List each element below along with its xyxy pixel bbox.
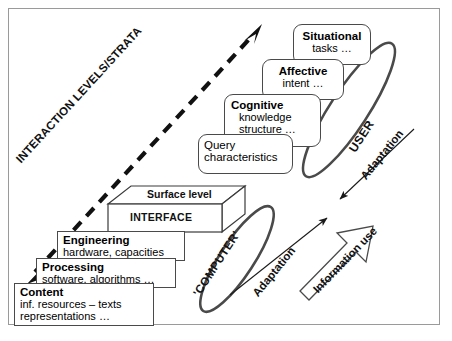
box-engineering-heading: Engineering	[63, 234, 184, 246]
box-content-line3: representations …	[20, 310, 153, 322]
box-engineering-line2: hardware, capacities	[63, 246, 184, 258]
box-situational-line2: tasks …	[294, 42, 370, 54]
box-affective-line2: intent …	[263, 77, 343, 89]
box-query-line2: characteristics	[204, 151, 292, 163]
box-query-characteristics: Query characteristics	[198, 134, 293, 174]
interface-front-label: INTERFACE	[130, 211, 192, 223]
box-affective-heading: Affective	[263, 65, 343, 77]
box-content-heading: Content	[20, 286, 153, 298]
box-cognitive-heading: Cognitive	[231, 99, 320, 111]
box-query-heading: Query	[204, 139, 292, 151]
box-content-line2: inf. resources – texts	[20, 298, 153, 310]
box-cognitive-line2: knowledge	[231, 111, 320, 123]
box-engineering: Engineering hardware, capacities	[57, 231, 185, 261]
box-processing-heading: Processing	[42, 261, 175, 273]
interface-top-label: Surface level	[147, 188, 212, 200]
box-situational-heading: Situational	[294, 30, 370, 42]
diagram-canvas: Situational tasks … Affective intent … C…	[0, 0, 452, 341]
box-content: Content inf. resources – texts represent…	[14, 283, 154, 326]
